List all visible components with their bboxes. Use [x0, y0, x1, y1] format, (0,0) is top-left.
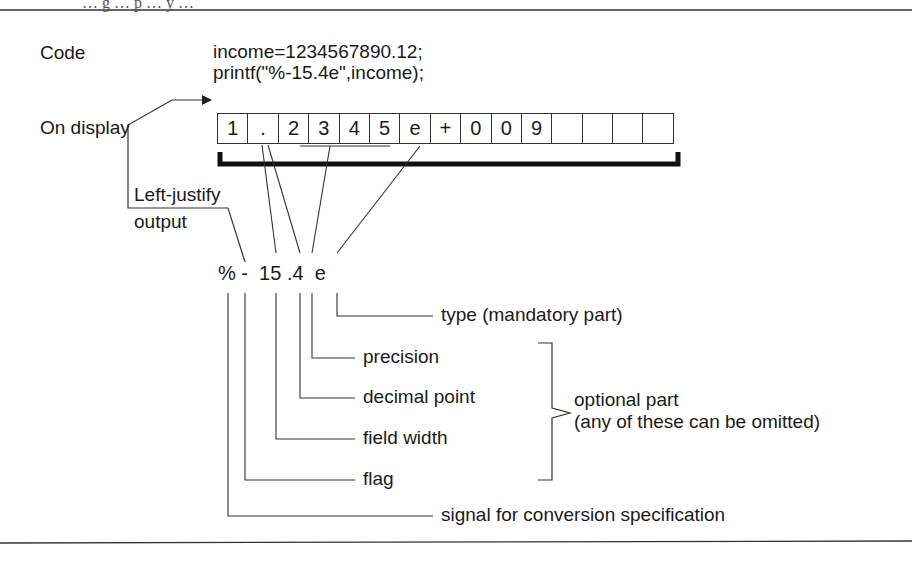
- type-branch: [337, 293, 433, 316]
- diagram-lines: [0, 0, 912, 562]
- label-precision: precision: [363, 346, 439, 368]
- decimal-connector: [268, 145, 300, 253]
- display-cells: 1 . 2 3 4 5 e + 0 0 9: [217, 113, 674, 144]
- display-cell: 0: [461, 114, 491, 143]
- label-signal: signal for conversion specification: [441, 504, 725, 526]
- display-cell: .: [248, 114, 278, 143]
- label-flag: flag: [363, 468, 394, 490]
- display-cell: [583, 114, 613, 143]
- display-cell: 5: [370, 114, 400, 143]
- display-cell: [613, 114, 643, 143]
- display-cell: 4: [340, 114, 370, 143]
- precision-branch: [312, 293, 355, 358]
- display-cell: [643, 114, 673, 143]
- display-cell: [552, 114, 582, 143]
- code-label: Code: [40, 42, 85, 64]
- left-justify-callout-line: [128, 100, 202, 183]
- decimal-point-branch: [300, 293, 355, 398]
- display-cell: 9: [522, 114, 552, 143]
- display-cell: e: [400, 114, 430, 143]
- display-cell: +: [431, 114, 461, 143]
- display-cell: 1: [218, 114, 248, 143]
- label-decimal-point: decimal point: [363, 386, 475, 408]
- top-caption-fragment: … g … p … y …: [82, 0, 194, 14]
- left-justify-label-1: Left-justify: [134, 184, 221, 206]
- optional-brace: [538, 343, 570, 480]
- display-cell: 2: [279, 114, 309, 143]
- code-line-1: income=1234567890.12;: [213, 41, 423, 63]
- field-width-branch: [276, 293, 355, 439]
- optional-label-1: optional part: [574, 389, 679, 411]
- label-type: type (mandatory part): [441, 304, 623, 326]
- bottom-rule: [0, 541, 912, 543]
- code-line-2: printf("%-15.4e",income);: [213, 62, 424, 84]
- format-spec: % - 15 .4 e: [218, 262, 326, 285]
- label-field-width: field width: [363, 427, 448, 449]
- display-cell: 0: [492, 114, 522, 143]
- field-width-bracket: [220, 152, 678, 164]
- display-cell: 3: [309, 114, 339, 143]
- optional-label-2: (any of these can be omitted): [574, 411, 820, 433]
- display-label: On display: [40, 117, 130, 139]
- field-width-connector: [262, 145, 276, 253]
- arrow-right-icon: [202, 95, 212, 105]
- left-justify-label-2: output: [134, 211, 187, 233]
